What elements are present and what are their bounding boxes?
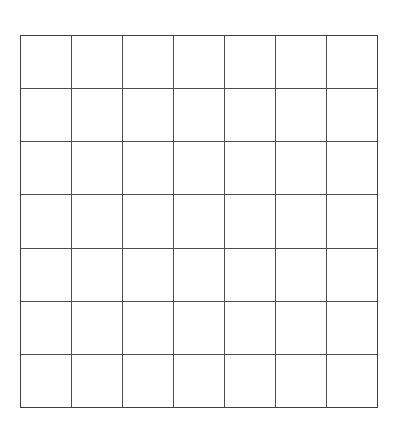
- table-row: [21, 195, 378, 248]
- table-row: [21, 142, 378, 195]
- grid-cell[interactable]: [276, 142, 327, 195]
- grid-cell[interactable]: [174, 248, 225, 301]
- grid-cell[interactable]: [21, 248, 72, 301]
- grid-cell[interactable]: [174, 36, 225, 89]
- grid-cell[interactable]: [123, 248, 174, 301]
- grid-cell[interactable]: [327, 89, 378, 142]
- table-row: [21, 89, 378, 142]
- grid-cell[interactable]: [174, 89, 225, 142]
- grid-cell[interactable]: [276, 301, 327, 354]
- grid-cell[interactable]: [72, 301, 123, 354]
- grid-cell[interactable]: [327, 248, 378, 301]
- grid-cell[interactable]: [225, 248, 276, 301]
- grid-cell[interactable]: [72, 248, 123, 301]
- grid-cell[interactable]: [174, 301, 225, 354]
- grid-cell[interactable]: [327, 301, 378, 354]
- grid-cell[interactable]: [327, 195, 378, 248]
- grid-cell[interactable]: [327, 36, 378, 89]
- grid-body: [21, 36, 378, 408]
- grid-cell[interactable]: [225, 142, 276, 195]
- grid-cell[interactable]: [225, 354, 276, 407]
- table-row: [21, 301, 378, 354]
- grid-cell[interactable]: [225, 195, 276, 248]
- grid-container: [20, 35, 378, 408]
- grid-cell[interactable]: [72, 195, 123, 248]
- grid-cell[interactable]: [276, 89, 327, 142]
- table-row: [21, 354, 378, 407]
- grid-cell[interactable]: [327, 354, 378, 407]
- grid-cell[interactable]: [327, 142, 378, 195]
- grid-cell[interactable]: [123, 89, 174, 142]
- grid-cell[interactable]: [123, 354, 174, 407]
- grid-cell[interactable]: [276, 36, 327, 89]
- grid-cell[interactable]: [123, 301, 174, 354]
- grid-cell[interactable]: [21, 142, 72, 195]
- grid-cell[interactable]: [21, 89, 72, 142]
- grid-cell[interactable]: [72, 89, 123, 142]
- grid-cell[interactable]: [225, 89, 276, 142]
- grid-cell[interactable]: [276, 354, 327, 407]
- grid-cell[interactable]: [21, 354, 72, 407]
- grid-cell[interactable]: [123, 142, 174, 195]
- page-canvas: [0, 0, 399, 421]
- grid-cell[interactable]: [21, 195, 72, 248]
- grid-cell[interactable]: [174, 195, 225, 248]
- grid-cell[interactable]: [72, 354, 123, 407]
- grid-cell[interactable]: [72, 36, 123, 89]
- table-row: [21, 36, 378, 89]
- grid-cell[interactable]: [174, 142, 225, 195]
- grid-cell[interactable]: [72, 142, 123, 195]
- grid-cell[interactable]: [225, 36, 276, 89]
- grid-cell[interactable]: [276, 195, 327, 248]
- table-row: [21, 248, 378, 301]
- grid-cell[interactable]: [276, 248, 327, 301]
- grid-cell[interactable]: [21, 301, 72, 354]
- grid-cell[interactable]: [225, 301, 276, 354]
- grid-cell[interactable]: [21, 36, 72, 89]
- grid-cell[interactable]: [123, 195, 174, 248]
- blank-grid-table: [20, 35, 378, 408]
- grid-cell[interactable]: [174, 354, 225, 407]
- grid-cell[interactable]: [123, 36, 174, 89]
